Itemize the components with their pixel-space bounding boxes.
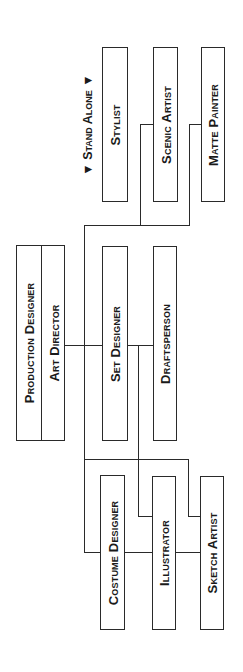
connector — [188, 516, 200, 517]
node-label-production-designer: Production Designer — [22, 283, 37, 403]
connector — [188, 459, 189, 517]
node-label: Scenic Artist — [158, 86, 173, 164]
node-label: Matte Painter — [206, 83, 221, 165]
connector — [84, 459, 189, 460]
node-costume-designer: Costume Designer — [100, 475, 125, 630]
node-stylist: Stylist — [102, 47, 128, 202]
connector — [125, 552, 152, 553]
node-label: Set Designer — [108, 305, 123, 381]
stand-alone-label: ▼ Stand Alone ▼ — [81, 74, 95, 175]
connector — [138, 345, 139, 517]
node-matte-painter: Matte Painter — [201, 47, 225, 202]
connector — [84, 225, 190, 226]
connector — [138, 516, 153, 517]
node-label: Illustrator — [157, 520, 172, 586]
connector — [176, 552, 200, 553]
node-label-art-director: Art Director — [46, 304, 61, 381]
node-set-designer: Set Designer — [102, 246, 128, 441]
connector — [128, 345, 153, 346]
node-sketch-artist: Sketch Artist — [200, 476, 224, 630]
node-label: Costume Designer — [105, 500, 120, 605]
node-label: Stylist — [108, 104, 123, 145]
node-scenic-artist: Scenic Artist — [153, 47, 178, 202]
connector — [189, 124, 201, 125]
node-label: Sketch Artist — [205, 513, 220, 594]
connector — [189, 124, 190, 225]
connector — [84, 225, 85, 553]
connector — [140, 124, 153, 125]
node-production-designer-art-director: Production Designer Art Director — [16, 245, 65, 441]
connector — [140, 124, 141, 225]
node-label: Draftsperson — [158, 304, 173, 384]
connector — [84, 552, 100, 553]
connector — [65, 345, 102, 346]
node-draftsperson: Draftsperson — [153, 246, 177, 441]
node-illustrator: Illustrator — [152, 476, 176, 630]
